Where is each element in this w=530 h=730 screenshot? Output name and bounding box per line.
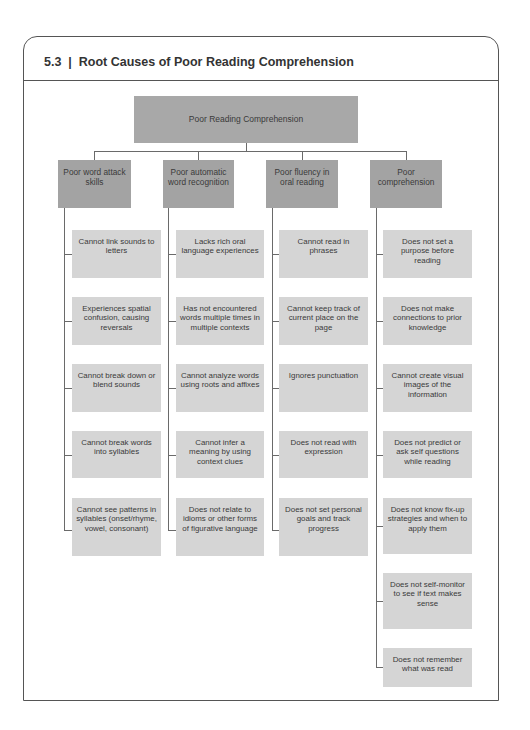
- branch: [376, 321, 383, 322]
- cause-box: Does not know fix-up strategies and when…: [383, 498, 472, 554]
- cause-box: Does not self-monitor to see if text mak…: [383, 573, 472, 629]
- category-label: Poor comprehension: [374, 168, 438, 188]
- branch: [168, 254, 176, 255]
- category-drop-4: [406, 151, 407, 160]
- cause-label: Cannot break words into syllables: [76, 438, 157, 457]
- branch: [272, 455, 279, 456]
- branch: [64, 455, 72, 456]
- category-word-attack: Poor word attack skills: [58, 160, 131, 208]
- spine-col-1: [64, 208, 65, 531]
- spine-col-4: [376, 208, 377, 668]
- category-word-recognition: Poor automatic word recognition: [163, 160, 234, 208]
- cause-box: Cannot create visual images of the infor…: [383, 364, 472, 412]
- cause-box: Does not predict or ask self questions w…: [383, 431, 472, 478]
- branch: [168, 388, 176, 389]
- cause-label: Ignores punctuation: [289, 371, 358, 380]
- spine-col-2: [168, 208, 169, 531]
- cause-label: Does not predict or ask self questions w…: [387, 438, 468, 466]
- branch: [376, 388, 383, 389]
- figure-title-text: Root Causes of Poor Reading Comprehensio…: [79, 55, 354, 69]
- category-fluency: Poor fluency in oral reading: [266, 160, 338, 208]
- cause-box: Cannot read in phrases: [279, 230, 368, 278]
- cause-box: Ignores punctuation: [279, 364, 368, 412]
- branch: [168, 321, 176, 322]
- cause-box: Does not set a purpose before reading: [383, 230, 472, 278]
- cause-box: Cannot keep track of current place on th…: [279, 297, 368, 345]
- cause-label: Cannot read in phrases: [283, 237, 364, 256]
- branch: [272, 530, 279, 531]
- cause-box: Lacks rich oral language experiences: [176, 230, 264, 278]
- title-separator: |: [68, 55, 72, 69]
- cause-box: Cannot analyze words using roots and aff…: [176, 364, 264, 412]
- cause-box: Has not encountered words multiple times…: [176, 297, 264, 345]
- cause-label: Cannot infer a meaning by using context …: [180, 438, 260, 466]
- figure-number: 5.3: [44, 55, 61, 69]
- cause-label: Has not encountered words multiple times…: [180, 304, 260, 332]
- spine-col-3: [272, 208, 273, 531]
- cause-box: Cannot break words into syllables: [72, 431, 161, 478]
- cause-label: Does not set personal goals and track pr…: [283, 505, 364, 533]
- branch: [272, 254, 279, 255]
- header-divider: [23, 80, 499, 81]
- cause-label: Does not set a purpose before reading: [387, 237, 468, 265]
- branch: [376, 601, 383, 602]
- category-label: Poor fluency in oral reading: [270, 168, 334, 188]
- branch: [376, 526, 383, 527]
- cause-label: Does not relate to idioms or other forms…: [180, 505, 260, 533]
- category-drop-2: [198, 151, 199, 160]
- branch: [376, 254, 383, 255]
- cause-label: Does not make connections to prior knowl…: [387, 304, 468, 332]
- cause-label: Cannot break down or blend sounds: [76, 371, 157, 390]
- branch: [272, 321, 279, 322]
- cause-label: Cannot create visual images of the infor…: [387, 371, 468, 399]
- branch: [64, 530, 72, 531]
- cause-label: Cannot analyze words using roots and aff…: [180, 371, 260, 390]
- branch: [64, 254, 72, 255]
- branch: [272, 388, 279, 389]
- cause-box: Does not set personal goals and track pr…: [279, 498, 368, 556]
- cause-label: Does not read with expression: [283, 438, 364, 457]
- cause-box: Cannot link sounds to letters: [72, 230, 161, 278]
- category-comprehension: Poor comprehension: [370, 160, 442, 208]
- branch: [168, 530, 176, 531]
- cause-box: Does not relate to idioms or other forms…: [176, 498, 264, 556]
- category-bus: [94, 151, 407, 152]
- cause-box: Experiences spatial confusion, causing r…: [72, 297, 161, 345]
- cause-box: Does not remember what was read: [383, 648, 472, 687]
- cause-label: Does not remember what was read: [387, 655, 468, 674]
- cause-box: Cannot see patterns in syllables (onset/…: [72, 498, 161, 556]
- branch: [64, 321, 72, 322]
- root-label: Poor Reading Comprehension: [189, 114, 303, 124]
- category-drop-3: [302, 151, 303, 160]
- cause-box: Cannot break down or blend sounds: [72, 364, 161, 412]
- cause-label: Experiences spatial confusion, causing r…: [76, 304, 157, 332]
- branch: [64, 388, 72, 389]
- cause-label: Lacks rich oral language experiences: [180, 237, 260, 256]
- branch: [168, 455, 176, 456]
- cause-box: Does not read with expression: [279, 431, 368, 478]
- branch: [376, 455, 383, 456]
- cause-label: Does not self-monitor to see if text mak…: [387, 580, 468, 608]
- cause-label: Does not know fix-up strategies and when…: [387, 505, 468, 533]
- cause-label: Cannot see patterns in syllables (onset/…: [76, 505, 157, 533]
- branch: [376, 667, 383, 668]
- cause-box: Does not make connections to prior knowl…: [383, 297, 472, 345]
- figure-title: 5.3 | Root Causes of Poor Reading Compre…: [44, 55, 354, 69]
- root-node: Poor Reading Comprehension: [134, 96, 358, 143]
- cause-label: Cannot keep track of current place on th…: [283, 304, 364, 332]
- category-label: Poor automatic word recognition: [167, 168, 230, 188]
- category-drop-1: [94, 151, 95, 160]
- cause-box: Cannot infer a meaning by using context …: [176, 431, 264, 478]
- category-label: Poor word attack skills: [62, 168, 127, 188]
- cause-label: Cannot link sounds to letters: [76, 237, 157, 256]
